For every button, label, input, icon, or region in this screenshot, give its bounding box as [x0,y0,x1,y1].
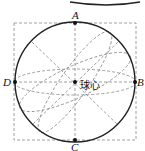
center-dot [73,80,77,84]
label-c: C [71,141,79,151]
center-label: 球心 [80,79,100,91]
label-b: B [137,76,144,88]
label-d: D [2,76,11,88]
point-d-dot [13,80,17,84]
point-a-dot [73,21,77,25]
label-a: A [71,9,79,21]
sphere-diagram: A B C D 球心 [0,0,145,151]
top-partial-arc [70,2,140,5]
